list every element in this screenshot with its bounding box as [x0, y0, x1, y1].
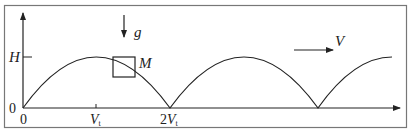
y-origin-label: 0 — [9, 101, 16, 116]
block-m — [113, 57, 135, 77]
block-m-label: M — [138, 55, 153, 71]
vt-sub: t — [99, 119, 102, 128]
two-vt-label: 2Vt — [160, 112, 179, 128]
two-vt-coef: 2 — [160, 112, 167, 127]
x-origin-label: 0 — [20, 112, 27, 127]
trajectory-curve — [23, 57, 392, 108]
vt-label: Vt — [90, 112, 102, 128]
two-vt-sub: t — [176, 119, 179, 128]
gravity-label: g — [134, 24, 142, 40]
h-label: H — [8, 49, 21, 65]
diagram-canvas: H 0 0 Vt 2Vt g M V — [0, 0, 409, 135]
velocity-label: V — [335, 33, 346, 49]
